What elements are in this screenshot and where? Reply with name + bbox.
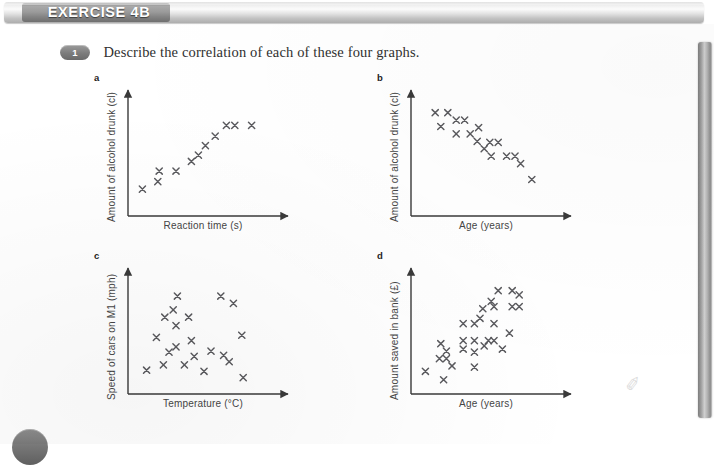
data-point (506, 330, 512, 336)
page-edge-shadow (698, 42, 712, 418)
scatter-chart-b (377, 84, 579, 234)
data-point (223, 122, 229, 128)
data-point (232, 122, 238, 128)
data-point (422, 368, 428, 374)
data-points-c (144, 293, 247, 381)
data-point (445, 110, 451, 116)
exercise-header-bar: EXERCISE 4B (4, 2, 704, 23)
data-point (462, 117, 468, 123)
data-point (441, 377, 447, 383)
data-point (491, 337, 497, 343)
data-point (487, 139, 493, 145)
data-point (471, 349, 477, 355)
data-point (201, 368, 207, 374)
data-point (191, 353, 197, 359)
data-point (529, 176, 535, 182)
data-point (239, 332, 245, 338)
y-axis-label-c: Speed of cars on M1 (mph) (106, 274, 117, 400)
question-number-badge: 1 (60, 45, 90, 60)
data-point (436, 355, 442, 361)
data-point (504, 153, 510, 159)
data-point (212, 133, 218, 139)
graph-panel-d: d Amount saved in bank (£)Age (years) (377, 250, 592, 420)
data-point (516, 292, 522, 298)
data-point (188, 158, 194, 164)
data-point (432, 110, 438, 116)
data-point (139, 186, 145, 192)
data-point (181, 362, 187, 368)
graph-letter-a: a (94, 72, 99, 83)
y-axis-label-b: Amount of alcohol drunk (cl) (389, 92, 400, 222)
plot-area-d: Amount saved in bank (£)Age (years) (377, 262, 579, 412)
data-point (188, 337, 194, 343)
data-point (186, 314, 192, 320)
data-point (155, 179, 161, 185)
data-point (208, 348, 214, 354)
scatter-chart-c (94, 262, 296, 412)
data-point (460, 346, 466, 352)
data-point (512, 153, 518, 159)
data-point (160, 362, 166, 368)
x-axis-label-a: Reaction time (s) (128, 220, 278, 231)
x-axis-label-d: Age (years) (411, 398, 561, 409)
graph-panel-b: b Amount of alcohol drunk (cl)Age (years… (377, 72, 592, 242)
data-point (460, 337, 466, 343)
data-point (509, 288, 515, 294)
data-point (166, 349, 172, 355)
question-row: 1 Describe the correlation of each of th… (60, 43, 420, 65)
data-point (495, 288, 501, 294)
exercise-title: EXERCISE 4B (24, 2, 174, 23)
data-point (481, 146, 487, 152)
data-point (174, 293, 180, 299)
data-point (491, 320, 497, 326)
data-point (485, 337, 491, 343)
data-point (471, 337, 477, 343)
plot-area-a: Amount of alcohol drunk (cl)Reaction tim… (94, 84, 296, 234)
data-point (471, 364, 477, 370)
data-point (509, 304, 515, 310)
x-axis-label-b: Age (years) (411, 220, 561, 231)
data-point (221, 352, 227, 358)
data-point (170, 307, 176, 313)
data-point (443, 348, 449, 354)
data-point (226, 359, 232, 365)
data-point (173, 168, 179, 174)
data-point (218, 293, 224, 299)
data-point (240, 375, 246, 381)
graph-letter-d: d (377, 250, 383, 261)
data-point (495, 139, 501, 145)
plot-area-c: Speed of cars on M1 (mph)Temperature (°C… (94, 262, 296, 412)
data-points-d (422, 288, 522, 383)
graph-letter-b: b (377, 72, 383, 83)
data-point (438, 341, 444, 347)
data-point (481, 343, 487, 349)
scan-artifact: ✐ (624, 371, 651, 408)
data-points-b (432, 110, 535, 183)
data-point (488, 153, 494, 159)
data-point (480, 306, 486, 312)
data-point (162, 314, 168, 320)
data-point (449, 363, 455, 369)
scatter-chart-a (94, 84, 296, 234)
data-point (173, 344, 179, 350)
data-point (467, 131, 473, 137)
graph-panel-c: c Speed of cars on M1 (mph)Temperature (… (94, 250, 309, 420)
data-point (195, 152, 201, 158)
data-point (249, 122, 255, 128)
question-text: Describe the correlation of each of thes… (103, 44, 419, 61)
data-point (230, 300, 236, 306)
data-point (453, 117, 459, 123)
y-axis-label-a: Amount of alcohol drunk (cl) (106, 92, 117, 222)
graph-letter-c: c (94, 250, 99, 261)
scatter-chart-d (377, 262, 579, 412)
data-point (443, 355, 449, 361)
data-point (460, 320, 466, 326)
data-point (156, 168, 162, 174)
data-point (516, 304, 522, 310)
x-axis-label-c: Temperature (°C) (128, 398, 278, 409)
data-point (477, 315, 483, 321)
data-point (202, 142, 208, 148)
data-point (173, 323, 179, 329)
data-point (474, 138, 480, 144)
y-axis-label-d: Amount saved in bank (£) (389, 281, 400, 400)
